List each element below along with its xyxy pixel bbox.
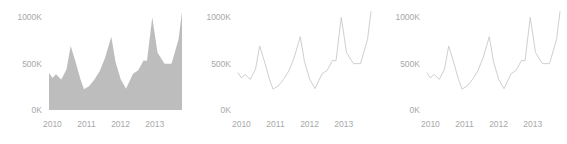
chart-panel-line-chart-1: 0K500K1000K2010201120122013 (189, 0, 378, 144)
y-axis-tick-label: 500K (22, 59, 42, 69)
x-axis-tick-label: 2012 (300, 119, 319, 129)
line-series (427, 12, 560, 89)
y-axis-tick-label: 500K (211, 59, 231, 69)
y-axis-tick-label: 0K (410, 105, 421, 115)
x-axis-tick-label: 2010 (421, 119, 440, 129)
area-series (49, 12, 182, 110)
x-axis-tick-label: 2012 (489, 119, 508, 129)
chart-panel-line-chart-2: 0K500K1000K2010201120122013 (378, 0, 567, 144)
y-axis-tick-label: 500K (400, 59, 420, 69)
x-axis-tick-label: 2011 (77, 119, 96, 129)
chart-canvas: 0K500K1000K2010201120122013 (0, 0, 189, 144)
y-axis-tick-label: 0K (32, 105, 43, 115)
x-axis-tick-label: 2011 (455, 119, 474, 129)
chart-panel-area-chart: 0K500K1000K2010201120122013 (0, 0, 189, 144)
y-axis-tick-label: 1000K (395, 12, 420, 22)
x-axis-tick-label: 2012 (111, 119, 130, 129)
x-axis-tick-label: 2013 (145, 119, 164, 129)
x-axis-tick-label: 2011 (266, 119, 285, 129)
y-axis-tick-label: 1000K (206, 12, 231, 22)
x-axis-tick-label: 2013 (523, 119, 542, 129)
line-series (238, 12, 371, 89)
x-axis-tick-label: 2013 (334, 119, 353, 129)
y-axis-tick-label: 0K (221, 105, 232, 115)
small-multiples-row: 0K500K1000K20102011201220130K500K1000K20… (0, 0, 567, 144)
chart-canvas: 0K500K1000K2010201120122013 (189, 0, 378, 144)
x-axis-tick-label: 2010 (232, 119, 251, 129)
chart-canvas: 0K500K1000K2010201120122013 (378, 0, 567, 144)
y-axis-tick-label: 1000K (17, 12, 42, 22)
x-axis-tick-label: 2010 (43, 119, 62, 129)
